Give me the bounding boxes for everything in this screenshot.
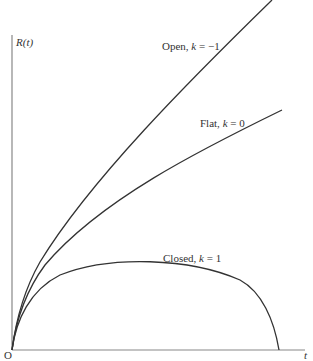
- flat-curve: [12, 110, 282, 350]
- flat-curve-label: Flat, k = 0: [200, 117, 245, 129]
- open-curve-label: Open, k = −1: [162, 40, 220, 52]
- x-axis-label: t: [304, 349, 307, 361]
- y-axis-label: R(t): [16, 36, 33, 48]
- closed-curve-label: Closed, k = 1: [163, 252, 221, 264]
- origin-label: O: [4, 349, 12, 361]
- closed-curve: [12, 262, 279, 350]
- diagram-canvas: [0, 0, 313, 361]
- open-curve: [12, 0, 272, 350]
